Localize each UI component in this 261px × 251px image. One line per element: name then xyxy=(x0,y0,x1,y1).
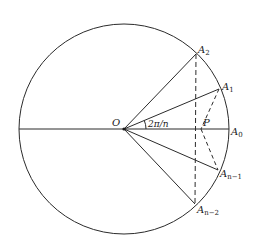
angle-arc xyxy=(144,121,146,130)
radius-oan1 xyxy=(124,129,218,170)
label-a1: A1 xyxy=(221,81,234,94)
center-point xyxy=(122,127,125,130)
radius-oan2 xyxy=(124,129,195,204)
label-an1: An−1 xyxy=(219,168,242,181)
label-an2: An−2 xyxy=(196,204,219,217)
diagram-canvas: O 2π/n P A0 A1 A2 An−1 An−2 xyxy=(0,0,261,251)
label-a0: A0 xyxy=(230,126,243,139)
label-o: O xyxy=(112,117,120,128)
geometry-figure: O 2π/n P A0 A1 A2 An−1 An−2 xyxy=(0,0,261,251)
label-p: P xyxy=(202,117,210,128)
chord-a2-an2 xyxy=(195,54,196,204)
label-angle: 2π/n xyxy=(147,119,169,129)
radius-oa2 xyxy=(124,54,196,129)
